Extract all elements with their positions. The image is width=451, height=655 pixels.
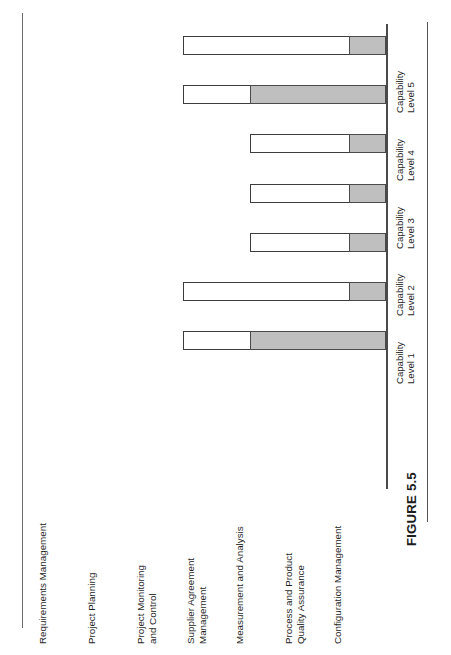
capability-level-tick-2: CapabilityLevel 2: [394, 274, 417, 316]
bar-fill: [349, 233, 386, 252]
category-label-line-2: Management: [197, 558, 209, 644]
figure-caption: FIGURE 5.5: [404, 472, 419, 546]
category-label-line-1: Requirements Management: [37, 523, 48, 644]
category-label-line-1: Project Monitoring: [135, 565, 146, 644]
category-label-line-1: Measurement and Analysis: [234, 526, 245, 644]
category-label-line-1: Configuration Management: [332, 526, 343, 644]
category-label-3: Project Monitoringand Control: [135, 565, 159, 644]
tick-line-1: Capability: [394, 139, 405, 181]
tick-line-2: Level 2: [405, 274, 416, 316]
category-label-4: Supplier AgreementManagement: [185, 558, 209, 644]
tick-line-2: Level 4: [405, 139, 416, 181]
category-label-7: Configuration Management: [332, 526, 344, 644]
tick-line-2: Level 3: [405, 206, 416, 248]
category-label-5: Measurement and Analysis: [234, 526, 246, 644]
tick-line-1: Capability: [394, 274, 405, 316]
capability-level-tick-3: CapabilityLevel 3: [394, 206, 417, 248]
category-label-line-1: Project Planning: [86, 573, 97, 644]
capability-level-tick-1: CapabilityLevel 1: [394, 342, 417, 384]
capability-level-tick-5: CapabilityLevel 5: [394, 71, 417, 113]
tick-line-2: Level 5: [405, 71, 416, 113]
category-label-line-1: Process and Product: [283, 553, 294, 644]
category-label-line-2: Quality Assurance: [295, 553, 307, 644]
capability-level-tick-4: CapabilityLevel 4: [394, 139, 417, 181]
capability-level-bar-chart: CapabilityLevel 1CapabilityLevel 2Capabi…: [0, 0, 451, 655]
category-label-line-1: Supplier Agreement: [185, 558, 196, 644]
tick-line-1: Capability: [394, 206, 405, 248]
tick-line-2: Level 1: [405, 342, 416, 384]
bar-fill: [349, 282, 386, 301]
tick-line-1: Capability: [394, 71, 405, 113]
bar-fill: [349, 36, 386, 55]
category-label-6: Process and ProductQuality Assurance: [283, 553, 307, 644]
category-label-line-2: and Control: [148, 565, 160, 644]
bar-fill: [349, 184, 386, 203]
value-axis-line: [386, 24, 388, 489]
category-label-2: Project Planning: [86, 573, 98, 644]
bar-fill: [250, 331, 386, 350]
bar-fill: [250, 85, 386, 104]
bar-fill: [349, 134, 386, 153]
tick-line-1: Capability: [394, 342, 405, 384]
category-label-1: Requirements Management: [37, 523, 49, 644]
